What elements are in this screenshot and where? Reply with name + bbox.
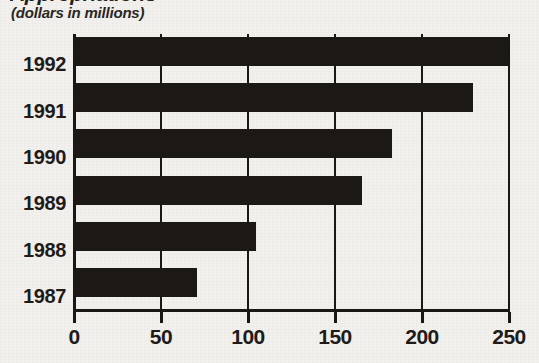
figure-subtitle: (dollars in millions) <box>11 4 144 21</box>
x-tick-label-100: 100 <box>231 326 265 347</box>
plot-area <box>73 34 510 312</box>
bar-1990 <box>75 129 392 158</box>
tick-150 <box>334 312 337 323</box>
x-axis-tick-labels: 050100150200250 <box>0 326 539 356</box>
x-axis-line <box>73 309 510 312</box>
x-tick-label-50: 50 <box>150 326 172 347</box>
y-axis-label-1989: 1989 <box>23 193 66 213</box>
x-tick-label-250: 250 <box>492 326 526 347</box>
x-tick-label-200: 200 <box>405 326 439 347</box>
y-axis-label-1987: 1987 <box>23 286 66 306</box>
bar-1989 <box>75 176 362 205</box>
chart-figure: Appropriations (dollars in millions) 199… <box>0 0 539 363</box>
tick-250 <box>508 312 511 323</box>
bar-1987 <box>75 268 197 297</box>
gridline-200 <box>421 34 423 310</box>
y-axis-category-labels: 199219911990198919881987 <box>0 34 73 312</box>
tick-0 <box>73 312 76 323</box>
y-axis-label-1991: 1991 <box>23 101 66 121</box>
y-axis-label-1992: 1992 <box>23 54 66 74</box>
bar-1988 <box>75 222 256 251</box>
gridline-100 <box>247 34 249 310</box>
gridline-250 <box>508 34 510 310</box>
y-axis-label-1990: 1990 <box>23 147 66 167</box>
x-tick-label-150: 150 <box>318 326 352 347</box>
tick-100 <box>247 312 250 323</box>
y-axis-label-1988: 1988 <box>23 240 66 260</box>
tick-50 <box>160 312 163 323</box>
tick-200 <box>421 312 424 323</box>
bar-1992 <box>75 37 508 66</box>
bar-1991 <box>75 83 473 112</box>
gridline-150 <box>334 34 336 310</box>
x-tick-label-0: 0 <box>68 326 79 347</box>
